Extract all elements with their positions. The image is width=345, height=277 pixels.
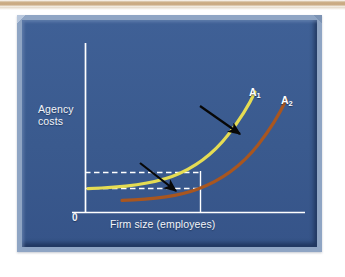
figure-root: Agency costs Firm size (employees) 0 A1 … <box>0 0 345 277</box>
curve-label-a2-sub: 2 <box>289 99 293 108</box>
curve-a1 <box>88 92 255 189</box>
curve-label-a2-base: A <box>281 94 289 106</box>
curve-label-a1-sub: 1 <box>257 91 261 100</box>
y-axis-label: Agency costs <box>38 103 96 127</box>
y-axis-label-line2: costs <box>38 115 96 127</box>
plot-area <box>0 0 345 277</box>
curve-label-a1-base: A <box>249 86 257 98</box>
curve-a2 <box>122 100 286 200</box>
curve-label-a2: A2 <box>281 94 293 106</box>
curve-label-a1: A1 <box>249 86 261 98</box>
y-axis-label-line1: Agency <box>38 103 96 115</box>
origin-label: 0 <box>72 212 78 224</box>
shift-arrow-upper <box>200 106 240 134</box>
x-axis-label: Firm size (employees) <box>110 218 215 230</box>
